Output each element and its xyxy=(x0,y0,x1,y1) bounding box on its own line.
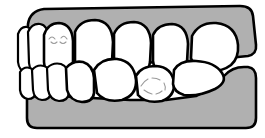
lower-tooth-5 xyxy=(94,59,136,101)
dental-occlusion-diagram xyxy=(0,0,265,138)
dental-illustration-figure: Lateral view of dental occlusion xyxy=(0,0,265,138)
lower-tooth-4 xyxy=(66,62,94,102)
lower-tooth-6 xyxy=(136,66,174,102)
